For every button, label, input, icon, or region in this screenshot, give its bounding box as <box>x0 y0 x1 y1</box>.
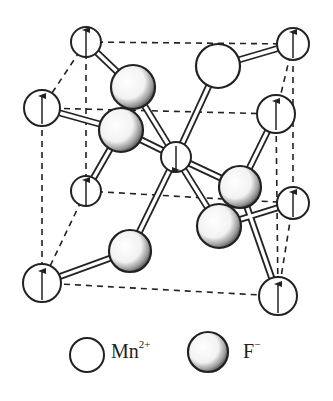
mn-atom-bottom-back-left <box>71 176 101 206</box>
f-atom-bottom-left <box>109 230 151 272</box>
f-atom-lower-right-back <box>219 166 261 208</box>
f-atom-top-right <box>196 44 240 88</box>
legend: Mn2+ F− <box>0 326 333 376</box>
mn-atom-top-front-left <box>24 90 60 126</box>
mn-atom-bottom-back-right <box>277 187 309 219</box>
mn-symbol: Mn <box>111 340 139 362</box>
f-symbol: F <box>243 340 254 362</box>
mn-atom-bottom-front-right <box>259 277 297 315</box>
mn-atom-top-front-right <box>257 95 295 133</box>
mn-atom-bottom-front-left <box>23 264 61 302</box>
legend-mn-icon <box>69 337 105 373</box>
f-atom-lower-right-front <box>197 204 241 248</box>
f-atom-upper-left-front <box>99 108 143 152</box>
mn-atom-center <box>161 142 191 172</box>
legend-f-label: F− <box>243 340 260 363</box>
f-charge: − <box>254 338 260 350</box>
legend-mn-label: Mn2+ <box>111 340 151 363</box>
f-atom-upper-left-back <box>111 65 155 109</box>
mn-atom-top-back-left <box>71 27 101 57</box>
mn-atom-top-back-right <box>277 28 309 60</box>
mn-charge: 2+ <box>139 338 151 350</box>
mn-atoms-front <box>23 90 297 315</box>
